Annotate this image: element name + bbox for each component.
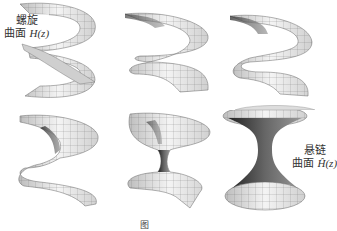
figure-caption: 图: [140, 218, 150, 231]
panel-catenoid: 悬链 曲面 Ĥ(z): [220, 110, 330, 226]
panel-helicoid: 螺旋 曲面 H(z): [0, 0, 110, 110]
panel-transition-1: [110, 0, 220, 110]
transition-surface-4: [110, 110, 220, 226]
panel-transition-3: [0, 110, 110, 226]
catenoid-label: 悬链 曲面 Ĥ(z): [292, 144, 337, 170]
transition-surface-2: [220, 0, 330, 110]
panel-transition-2: [220, 0, 330, 110]
transition-surface-1: [110, 0, 220, 110]
helicoid-label: 螺旋 曲面 H(z): [4, 14, 49, 40]
panel-transition-4: [110, 110, 220, 226]
transition-surface-3: [0, 110, 110, 226]
